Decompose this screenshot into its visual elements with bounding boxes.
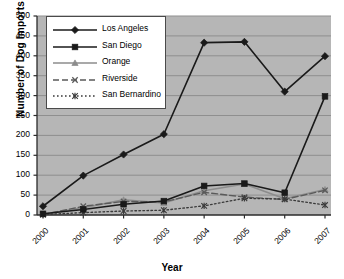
legend-label: San Diego <box>102 40 142 50</box>
y-tick-label: 100 <box>2 169 30 179</box>
y-tick-label: 150 <box>2 149 30 159</box>
marker-square <box>72 44 78 50</box>
marker-diamond <box>71 26 78 33</box>
y-tick-label: 400 <box>2 50 30 60</box>
y-tick-label: 350 <box>2 70 30 80</box>
legend-item-los-angeles[interactable]: Los Angeles <box>52 21 148 35</box>
legend: Los AngelesSan DiegoOrangeRiversideSan B… <box>46 16 166 109</box>
marker-square <box>80 207 86 213</box>
marker-square <box>322 94 328 100</box>
marker-square <box>201 183 207 189</box>
legend-item-san-diego[interactable]: San Diego <box>52 38 142 52</box>
y-tick-label: 450 <box>2 30 30 40</box>
legend-label: San Bernardino <box>102 89 161 99</box>
marker-square <box>161 198 167 204</box>
legend-symbol-diamond-icon <box>52 22 98 34</box>
y-tick-label: 200 <box>2 129 30 139</box>
marker-square <box>40 211 46 217</box>
marker-square <box>121 201 127 207</box>
y-tick-label: 0 <box>2 209 30 219</box>
marker-square <box>242 181 248 187</box>
marker-square <box>282 190 288 196</box>
y-tick-label: 50 <box>2 189 30 199</box>
x-axis-title: Year <box>0 262 344 273</box>
legend-symbol-triangle-icon <box>52 55 98 67</box>
legend-item-riverside[interactable]: Riverside <box>52 71 137 85</box>
y-tick-label: 500 <box>2 10 30 20</box>
legend-label: Riverside <box>102 73 137 83</box>
legend-symbol-square-icon <box>52 39 98 51</box>
y-tick-label: 300 <box>2 90 30 100</box>
legend-item-orange[interactable]: Orange <box>52 54 130 68</box>
y-tick-label: 250 <box>2 110 30 120</box>
legend-label: Orange <box>102 56 130 66</box>
dog-imports-line-chart: Number of Dog Imports Year 5004504003503… <box>0 0 344 279</box>
legend-symbol-asterisk-icon <box>52 88 98 100</box>
legend-item-san-bernardino[interactable]: San Bernardino <box>52 87 161 101</box>
legend-label: Los Angeles <box>102 23 148 33</box>
legend-symbol-x-icon <box>52 72 98 84</box>
